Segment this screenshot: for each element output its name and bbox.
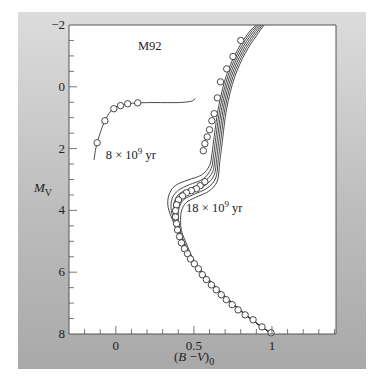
data-point <box>223 297 229 303</box>
data-point <box>117 102 123 108</box>
y-tick-label: −2 <box>51 17 65 32</box>
data-point <box>242 312 248 318</box>
annotation-unit: yr <box>229 201 243 215</box>
x-label-minus: − <box>186 349 197 364</box>
y-tick-label: 0 <box>59 79 66 94</box>
annotation-text: 8 × 10 <box>106 148 138 162</box>
data-point <box>238 37 244 43</box>
annotation-8gyr: 8 × 109 yr <box>106 146 157 162</box>
data-point <box>218 292 224 298</box>
data-point <box>208 282 214 288</box>
data-point <box>135 100 141 106</box>
data-point <box>202 140 208 146</box>
x-label-sub: 0 <box>209 356 214 367</box>
annotation-unit: yr <box>142 148 156 162</box>
annotation-18gyr: 18 × 109 yr <box>186 199 243 215</box>
data-point <box>214 95 220 101</box>
data-point <box>125 101 131 107</box>
y-tick-label: 8 <box>59 326 66 341</box>
data-point <box>173 202 179 208</box>
data-point <box>217 79 223 85</box>
data-point <box>102 118 108 124</box>
data-point <box>259 324 265 330</box>
y-tick-label: 4 <box>59 202 66 217</box>
y-label-sub: V <box>45 187 53 198</box>
y-tick-label: 6 <box>59 264 66 279</box>
data-point <box>203 276 209 282</box>
data-point <box>94 140 100 146</box>
data-point <box>268 330 274 336</box>
data-point <box>200 148 206 154</box>
data-point <box>213 287 219 293</box>
data-point <box>172 214 178 220</box>
data-point <box>209 118 215 124</box>
chart: 00.51−202468 M92 8 × 109 yr 18 × 109 yr … <box>0 0 377 378</box>
data-point <box>172 208 178 214</box>
data-point <box>229 301 235 307</box>
data-point <box>224 66 230 72</box>
chart-title: M92 <box>138 39 162 53</box>
data-point <box>204 134 210 140</box>
data-point <box>176 233 182 239</box>
data-point <box>111 106 117 112</box>
data-point <box>195 266 201 272</box>
x-tick-label: 1 <box>269 338 276 353</box>
data-point <box>206 127 212 133</box>
data-point <box>235 307 241 313</box>
x-tick-label: 0 <box>113 338 120 353</box>
data-point <box>173 220 179 226</box>
annotation-text: 18 × 10 <box>186 201 224 215</box>
data-point <box>174 227 180 233</box>
data-point <box>230 53 236 59</box>
data-point <box>250 317 256 323</box>
data-point <box>178 240 184 246</box>
y-axis-label: MV <box>33 180 53 198</box>
x-axis-label: (B −V)0 <box>174 349 214 367</box>
x-label-b: B <box>178 349 186 364</box>
y-tick-label: 2 <box>59 141 66 156</box>
data-point <box>211 110 217 116</box>
